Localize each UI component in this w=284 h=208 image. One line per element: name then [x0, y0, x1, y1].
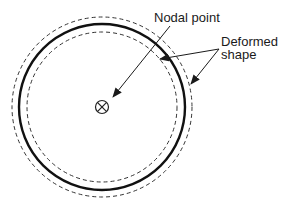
- deformed-arrow-inner: [160, 49, 219, 59]
- deformed-shape-label-line2: shape: [221, 47, 256, 62]
- nodal-point-icon: [96, 101, 109, 114]
- nodal-point-label: Nodal point: [154, 10, 220, 25]
- deformed-arrow-outer: [191, 49, 219, 84]
- nodal-diagram: Nodal point Deformed shape: [0, 0, 284, 208]
